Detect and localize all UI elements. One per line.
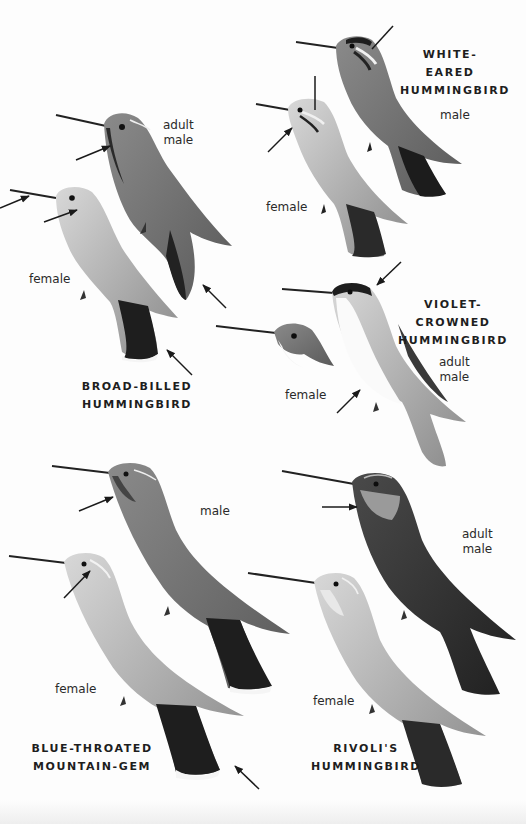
title-line-2: HUMMINGBIRD [394, 332, 512, 350]
label-line-1: adult [462, 527, 493, 542]
label-line-2: male [462, 542, 493, 557]
page-bottom-shadow [0, 800, 526, 824]
title-line-1: VIOLET-CROWNED [394, 296, 512, 332]
white-eared-species-title: WHITE-EARED HUMMINGBIRD [400, 46, 500, 100]
violet-crowned-male-label: adult male [439, 355, 470, 385]
label-line-2: male [163, 133, 194, 148]
rivolis-male-label: adult male [462, 527, 493, 557]
title-line-1: WHITE-EARED [400, 46, 500, 82]
broad-billed-species-title: BROAD-BILLED HUMMINGBIRD [72, 378, 202, 414]
label-line-2: male [439, 370, 470, 385]
blue-throated-male-label: male [200, 504, 230, 519]
title-line-1: BLUE-THROATED [30, 740, 154, 758]
rivolis-species-title: RIVOLI'S HUMMINGBIRD [306, 740, 426, 776]
blue-throated-species-title: BLUE-THROATED MOUNTAIN-GEM [30, 740, 154, 776]
violet-crowned-species-title: VIOLET-CROWNED HUMMINGBIRD [394, 296, 512, 350]
field-guide-plate: adult male female BROAD-BILLED HUMMINGBI… [0, 0, 526, 824]
violet-crowned-female-bird [216, 323, 334, 368]
blue-throated-female-label: female [55, 682, 96, 697]
title-line-1: RIVOLI'S [306, 740, 426, 758]
title-line-1: BROAD-BILLED [72, 378, 202, 396]
title-line-2: HUMMINGBIRD [72, 396, 202, 414]
rivolis-female-label: female [313, 694, 354, 709]
violet-crowned-female-label: female [285, 388, 326, 403]
title-line-2: MOUNTAIN-GEM [30, 758, 154, 776]
label-line-1: adult [163, 118, 194, 133]
white-eared-male-label: male [440, 108, 470, 123]
title-line-2: HUMMINGBIRD [400, 82, 500, 100]
broad-billed-male-label: adult male [163, 118, 194, 148]
white-eared-female-label: female [266, 200, 307, 215]
broad-billed-female-label: female [29, 272, 70, 287]
label-line-1: adult [439, 355, 470, 370]
title-line-2: HUMMINGBIRD [306, 758, 426, 776]
